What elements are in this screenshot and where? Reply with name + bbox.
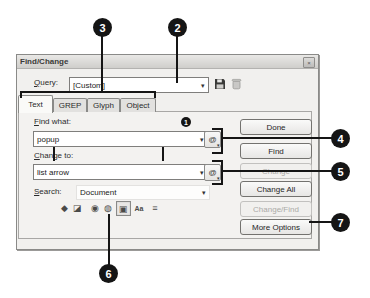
callout-6: 6 (99, 264, 118, 283)
callout-6-bracket-right (162, 147, 164, 161)
close-button[interactable]: × (303, 57, 315, 68)
callout-4-line (221, 137, 332, 139)
change-to-input[interactable]: list arrow ▾ (33, 164, 208, 180)
find-button[interactable]: Find (240, 143, 312, 159)
case-sensitive-icon[interactable]: Aa (133, 202, 145, 214)
tab-grep[interactable]: GREP (53, 98, 87, 112)
search-label: Search: (34, 187, 62, 196)
tab-glyph[interactable]: Glyph (87, 98, 120, 112)
done-button[interactable]: Done (240, 119, 312, 135)
callout-5-bracket (212, 160, 223, 185)
search-scope-dropdown[interactable]: Document ▾ (76, 185, 210, 200)
close-icon: × (307, 60, 311, 66)
callout-4: 4 (331, 129, 350, 148)
find-change-dialog: Find/Change × Query: [Custom] ▾ Text GRE… (16, 54, 319, 250)
search-scope-value: Document (80, 188, 116, 197)
include-locked-layers-icon[interactable]: ◆ (58, 202, 70, 214)
callout-6-bracket-left (53, 147, 55, 161)
query-label: Query: (34, 78, 58, 87)
callout-3: 3 (93, 18, 112, 37)
callout-6-line (108, 214, 110, 266)
include-locked-stories-icon[interactable]: ◪ (71, 202, 83, 214)
callout-7-line (309, 221, 332, 223)
find-what-value: popup (37, 135, 59, 144)
tab-object[interactable]: Object (120, 98, 156, 112)
more-options-button[interactable]: More Options (240, 219, 312, 235)
delete-query-icon[interactable] (231, 78, 242, 90)
include-hidden-layers-icon[interactable]: ◉ (89, 202, 101, 214)
callout-7: 7 (331, 213, 350, 232)
search-dropdown-arrow-icon: ▾ (202, 189, 206, 197)
whole-word-icon[interactable]: ≡ (149, 202, 161, 214)
dialog-titlebar[interactable]: Find/Change (17, 55, 318, 69)
callout-3-bracket (20, 91, 156, 98)
callout-4-bracket (212, 128, 223, 154)
change-all-button[interactable]: Change All (240, 181, 312, 197)
callout-2-line (176, 36, 178, 83)
include-master-pages-icon[interactable]: ◍ (102, 202, 114, 214)
callout-3-line (101, 36, 103, 91)
find-what-label: Find what: (34, 117, 71, 126)
dialog-title: Find/Change (20, 57, 68, 66)
callout-1: 1 (181, 117, 191, 127)
change-to-value: list arrow (37, 168, 69, 177)
callout-5: 5 (331, 162, 350, 181)
callout-5-line (221, 170, 332, 172)
find-what-input[interactable]: popup ▾ (33, 131, 208, 147)
query-dropdown-arrow-icon: ▾ (201, 82, 205, 89)
include-footnotes-icon[interactable]: ▣ (116, 201, 131, 216)
save-query-icon[interactable] (214, 78, 226, 90)
change-find-button[interactable]: Change/Find (240, 201, 312, 217)
callout-2: 2 (168, 18, 187, 37)
